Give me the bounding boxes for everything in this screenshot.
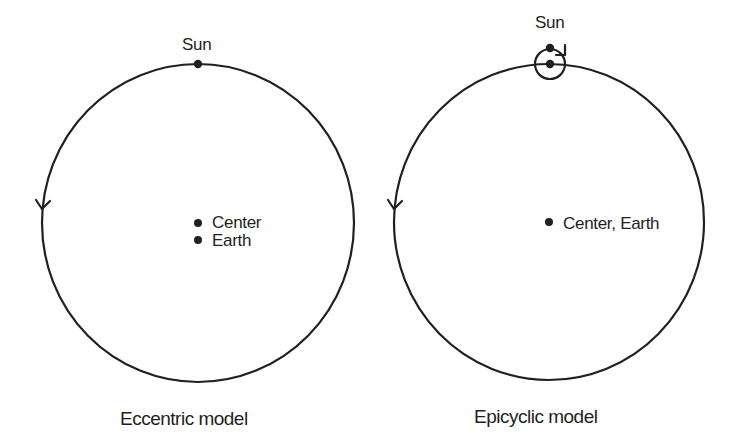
- eccentric-model: [36, 60, 354, 382]
- epicyclic-sun-dot: [546, 44, 554, 52]
- eccentric-model-caption: Eccentric model: [120, 409, 248, 428]
- epicyclic-model: [388, 44, 704, 380]
- eccentric-earth-dot: [194, 236, 202, 244]
- epicycle-center-dot: [546, 60, 554, 68]
- eccentric-center-dot: [194, 219, 202, 227]
- eccentric-earth-label: Earth: [212, 232, 251, 249]
- eccentric-sun-dot: [194, 60, 202, 68]
- epicyclic-model-caption: Epicyclic model: [474, 407, 597, 426]
- epicyclic-center-earth-label: Center, Earth: [563, 215, 659, 232]
- eccentric-sun-label: Sun: [182, 36, 211, 53]
- epicyclic-sun-label: Sun: [535, 14, 564, 31]
- eccentric-center-label: Center: [212, 214, 261, 231]
- epicyclic-center-earth-dot: [545, 218, 553, 226]
